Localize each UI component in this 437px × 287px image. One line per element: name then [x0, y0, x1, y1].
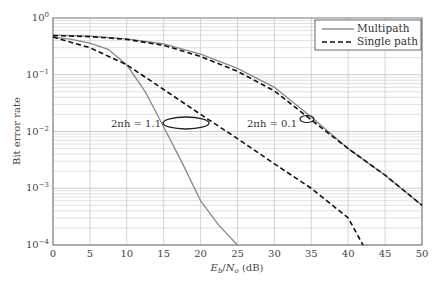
y-axis-label: Bit error rate — [11, 97, 22, 165]
annotation-ellipse-1.1 — [163, 117, 209, 129]
x-tick-labels: 05101520253035404550 — [50, 248, 429, 259]
annotation-2pih-0.1: 2πh = 0.1 — [247, 118, 297, 129]
single-path-curve — [53, 37, 363, 245]
x-tick-label: 30 — [268, 248, 281, 259]
ber-chart: 05101520253035404550 10010−110−210−310−4… — [0, 0, 437, 287]
x-tick-label: 25 — [231, 248, 244, 259]
y-tick-label: 100 — [32, 11, 49, 23]
x-tick-label: 10 — [120, 248, 133, 259]
x-tick-label: 45 — [379, 248, 392, 259]
x-tick-label: 15 — [157, 248, 170, 259]
y-tick-label: 10−4 — [26, 238, 50, 250]
x-tick-label: 20 — [194, 248, 207, 259]
y-tick-label: 10−2 — [26, 125, 49, 137]
legend-single-label: Single path — [357, 35, 418, 47]
x-axis-label: Eb/No (dB) — [210, 262, 264, 275]
x-tick-label: 0 — [50, 248, 56, 259]
annotation-2pih-1.1: 2πh = 1.1 — [111, 118, 161, 129]
y-tick-label: 10−3 — [26, 181, 49, 193]
x-tick-label: 50 — [416, 248, 429, 259]
legend-multipath-label: Multipath — [357, 22, 410, 34]
x-tick-label: 35 — [305, 248, 318, 259]
y-tick-label: 10−1 — [26, 68, 49, 80]
x-tick-label: 5 — [87, 248, 93, 259]
multipath-curve — [53, 37, 238, 245]
x-tick-label: 40 — [342, 248, 355, 259]
grid-lines — [53, 18, 422, 245]
legend: Multipath Single path — [315, 20, 421, 50]
y-tick-labels: 10010−110−210−310−4 — [26, 11, 50, 250]
